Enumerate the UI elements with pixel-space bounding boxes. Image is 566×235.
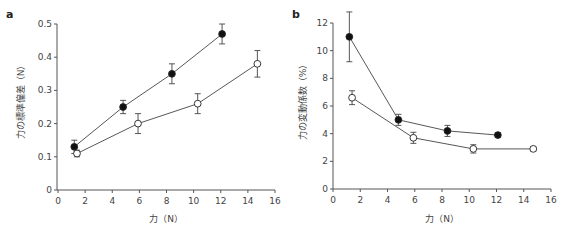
y-tick-label: 0.5 <box>38 19 52 29</box>
y-tick-label: 0.1 <box>38 152 52 162</box>
y-tick-label: 0.4 <box>38 52 53 62</box>
x-tick-label: 10 <box>188 196 200 206</box>
panel-label-a: a <box>6 8 13 21</box>
x-tick-label: 2 <box>357 195 363 205</box>
x-tick-label: 4 <box>109 196 115 206</box>
filled-circle-marker <box>395 116 402 123</box>
x-tick-label: 16 <box>269 196 281 206</box>
x-tick-label: 8 <box>439 195 445 205</box>
y-tick-label: 6 <box>322 101 328 111</box>
plot-area-a: 00.10.20.30.40.50246810121416 <box>38 19 281 206</box>
x-tick-label: 4 <box>385 195 391 205</box>
x-tick-label: 12 <box>491 195 502 205</box>
open-circle-marker <box>254 60 261 67</box>
x-tick-label: 0 <box>55 196 61 206</box>
y-tick-label: 2 <box>322 156 328 166</box>
y-tick-label: 8 <box>322 73 328 83</box>
y-tick-label: 0 <box>46 185 52 195</box>
open-circle-marker <box>530 145 537 152</box>
filled-circle-marker <box>346 33 353 40</box>
y-axis-title-a: 力の標準偏差（N） <box>15 61 26 140</box>
x-tick-label: 12 <box>215 196 226 206</box>
open-circle-marker <box>410 134 417 141</box>
x-tick-label: 6 <box>137 196 143 206</box>
open-circle-marker <box>470 145 477 152</box>
open-circle-marker <box>135 120 142 127</box>
y-tick-label: 0.3 <box>38 85 52 95</box>
x-axis-title-a: 力（N） <box>149 213 183 224</box>
x-tick-label: 14 <box>242 196 254 206</box>
plot-area-b: 0246810120246810121416 <box>317 12 557 205</box>
x-tick-label: 8 <box>164 196 170 206</box>
y-axis-title-b: 力の変動係数（%） <box>297 60 308 141</box>
y-tick-label: 4 <box>322 129 328 139</box>
y-tick-label: 0 <box>322 184 328 194</box>
series-line-filled <box>349 37 498 135</box>
open-circle-marker <box>74 150 81 157</box>
open-circle-marker <box>194 100 201 107</box>
filled-circle-marker <box>169 70 176 77</box>
x-tick-label: 16 <box>545 195 557 205</box>
x-tick-label: 6 <box>412 195 418 205</box>
chart-panel-b: b 力の変動係数（%） 力（N） 0246810120246810121416 <box>292 8 557 224</box>
y-tick-label: 0.2 <box>38 119 52 129</box>
series-line-filled <box>74 34 222 147</box>
y-tick-label: 10 <box>317 46 329 56</box>
filled-circle-marker <box>71 143 78 150</box>
filled-circle-marker <box>120 104 127 111</box>
x-tick-label: 14 <box>518 195 530 205</box>
open-circle-marker <box>349 94 356 101</box>
x-axis-title-b: 力（N） <box>425 213 459 224</box>
figure: a 力の標準偏差（N） 力（N） 00.10.20.30.40.50246810… <box>0 0 566 235</box>
y-tick-label: 12 <box>317 18 328 28</box>
x-tick-label: 10 <box>464 195 476 205</box>
series-line-open <box>352 98 533 149</box>
chart-panel-a: a 力の標準偏差（N） 力（N） 00.10.20.30.40.50246810… <box>6 8 281 224</box>
filled-circle-marker <box>444 127 451 134</box>
panel-label-b: b <box>292 8 300 21</box>
x-tick-label: 0 <box>330 195 336 205</box>
x-tick-label: 2 <box>82 196 88 206</box>
filled-circle-marker <box>219 31 226 38</box>
filled-circle-marker <box>494 132 501 139</box>
